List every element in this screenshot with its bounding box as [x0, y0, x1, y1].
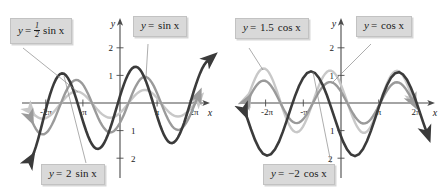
one-point-five-cos-callout: y = 1.5 cos x — [235, 18, 309, 39]
minus-two-cos-callout: y = −2 cos x — [263, 164, 335, 185]
leader-sin — [146, 44, 148, 77]
figure-root: -2π -π π 2π 2 1 1 2 x y — [0, 0, 446, 194]
leader-cos — [333, 44, 371, 82]
mcos2-function: cos x — [302, 168, 327, 180]
half-sin-fraction: 1 2 — [34, 22, 40, 39]
x-axis-label: x — [207, 107, 213, 118]
sin-function: sin x — [156, 20, 179, 32]
sin-eq: = — [146, 20, 156, 32]
ytick-neg-1: 1 — [131, 126, 136, 136]
two-sin-coefficient: 2 — [64, 168, 74, 180]
half-sin-callout: y = 1 2 sin x — [10, 18, 72, 44]
y-axis-label: y — [331, 18, 337, 29]
curve-sin — [30, 77, 198, 134]
half-sin-denominator: 2 — [34, 30, 40, 39]
leader-half-sin — [23, 48, 78, 92]
ytick-2: 2 — [330, 43, 335, 53]
half-sin-eq: = — [23, 25, 33, 37]
ytick-neg-1: 1 — [330, 126, 335, 136]
sin-callout: y = sin x — [133, 16, 187, 37]
y-axis-label: y — [110, 18, 116, 29]
ytick-neg-2: 2 — [131, 154, 136, 164]
mcos2-coefficient: −2 — [286, 168, 302, 180]
mcos2-eq: = — [276, 168, 286, 180]
two-sin-function: sin x — [74, 168, 97, 180]
half-sin-numerator: 1 — [34, 22, 40, 30]
cos15-coefficient: 1.5 — [258, 22, 276, 34]
cos-callout: y = cos x — [356, 16, 412, 37]
cosine-panel: -2π -π π 2π 2 1 1 2 x y — [223, 0, 446, 194]
sine-panel: -2π -π π 2π 2 1 1 2 x y — [0, 0, 223, 194]
leader-one-point-five-cos — [249, 48, 263, 70]
cos15-eq: = — [248, 22, 258, 34]
ytick-1: 1 — [109, 71, 114, 81]
ytick-2: 2 — [109, 43, 114, 53]
cos-eq: = — [369, 20, 379, 32]
xtick-neg-2pi: -2π — [261, 107, 273, 117]
half-sin-function: sin x — [41, 25, 64, 37]
cos15-function: cos x — [276, 22, 301, 34]
cos-function: cos x — [379, 20, 404, 32]
two-sin-callout: y = 2 sin x — [41, 164, 105, 185]
x-axis-label: x — [432, 107, 438, 118]
two-sin-eq: = — [54, 168, 64, 180]
